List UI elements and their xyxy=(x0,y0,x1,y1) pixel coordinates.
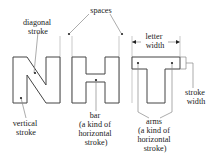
label-bar: bar (a kind of horizontal stroke) xyxy=(78,111,113,147)
arms-dot-right xyxy=(171,62,173,64)
label-letter-width: letter width xyxy=(146,32,165,50)
arrowhead-right-icon xyxy=(176,40,180,44)
spaces-leader-right xyxy=(110,14,121,33)
vertical-stroke-dot xyxy=(20,97,22,99)
spaces-dot-right xyxy=(121,33,123,35)
bar-dot xyxy=(95,79,97,81)
letter-anatomy-diagram: diagonal stroke spaces letter width vert… xyxy=(0,0,213,160)
spaces-leader-left xyxy=(70,14,89,33)
label-arms: arms (a kind of horizontal stroke) xyxy=(137,117,172,153)
diagonal-stroke-dot xyxy=(34,72,36,74)
stroke-width-bracket xyxy=(180,57,186,69)
spaces-dot-left xyxy=(68,33,70,35)
letter-n xyxy=(13,57,60,103)
label-spaces: spaces xyxy=(90,6,111,15)
label-vertical-stroke: vertical stroke xyxy=(13,119,40,137)
diagonal-stroke-leader xyxy=(34,32,38,73)
arrowhead-left-icon xyxy=(132,40,136,44)
label-diagonal-stroke: diagonal stroke xyxy=(23,18,53,36)
label-stroke-width: stroke width xyxy=(185,88,207,106)
diagram-canvas: diagonal stroke spaces letter width vert… xyxy=(0,0,213,160)
stroke-width-leader xyxy=(186,63,193,88)
arms-dot-left xyxy=(137,62,139,64)
letter-t xyxy=(132,57,180,103)
